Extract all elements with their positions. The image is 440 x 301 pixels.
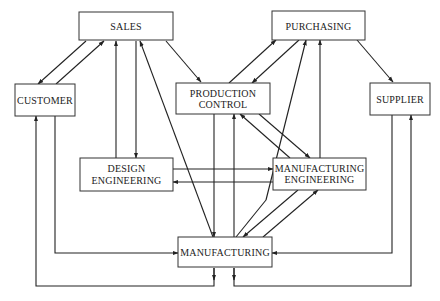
node-design-engineering: DESIGN ENGINEERING bbox=[80, 158, 173, 191]
edge-manufacturing-to-sales bbox=[140, 41, 213, 237]
node-purchasing: PURCHASING bbox=[272, 11, 365, 40]
node-design-engineering-label-2: ENGINEERING bbox=[92, 175, 162, 186]
node-sales: SALES bbox=[79, 12, 173, 40]
edge-production-control-to-manufacturing-engineering bbox=[259, 114, 310, 158]
node-production-control-label-1: PRODUCTION bbox=[190, 88, 256, 99]
node-production-control-label-2: CONTROL bbox=[199, 99, 248, 110]
node-purchasing-label: PURCHASING bbox=[286, 21, 352, 32]
node-customer-label: CUSTOMER bbox=[17, 95, 73, 106]
edge-sales-to-customer bbox=[38, 41, 86, 84]
node-manufacturing-label: MANUFACTURING bbox=[180, 247, 270, 258]
node-production-control: PRODUCTION CONTROL bbox=[176, 83, 270, 114]
node-manufacturing-engineering-label-1: MANUFACTURING bbox=[275, 163, 365, 174]
node-supplier: SUPPLIER bbox=[370, 83, 430, 115]
node-sales-label: SALES bbox=[110, 21, 142, 32]
edge-purchasing-to-production-control bbox=[252, 40, 299, 83]
edge-customer-to-sales bbox=[56, 41, 104, 84]
node-manufacturing-engineering: MANUFACTURING ENGINEERING bbox=[273, 158, 366, 190]
node-supplier-label: SUPPLIER bbox=[376, 94, 424, 105]
edge-sales-to-production-control bbox=[166, 41, 201, 82]
edge-purchasing-to-supplier bbox=[357, 40, 393, 82]
edge-manufacturing-to-purchasing-diag bbox=[236, 200, 266, 237]
edge-production-control-to-purchasing bbox=[229, 40, 276, 83]
node-manufacturing: MANUFACTURING bbox=[178, 237, 272, 267]
node-manufacturing-engineering-label-2: ENGINEERING bbox=[285, 174, 355, 185]
flow-diagram: SALES PURCHASING CUSTOMER PRODUCTION CON… bbox=[0, 0, 440, 301]
node-design-engineering-label-1: DESIGN bbox=[108, 163, 146, 174]
node-customer: CUSTOMER bbox=[15, 84, 75, 116]
